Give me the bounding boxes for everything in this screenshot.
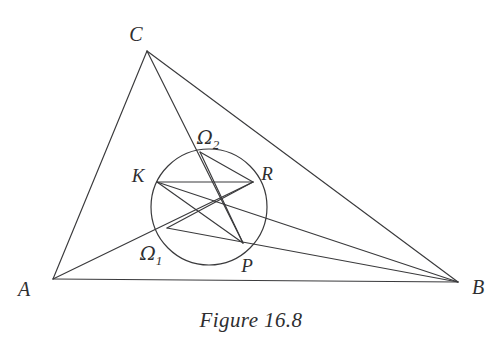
label-omega-1: Ω1 [139, 242, 162, 268]
label-K: K [131, 165, 146, 186]
figure-caption: Figure 16.8 [0, 308, 502, 333]
geometry-diagram: A B C K R P Ω1 Ω2 [0, 0, 502, 360]
segment-CB [147, 51, 458, 282]
segment-A-to-R [53, 182, 253, 279]
label-P: P [240, 255, 253, 276]
omega-2-glyph: Ω [196, 126, 213, 148]
segment-B-to-P [167, 228, 458, 282]
omega-1-subscript: 1 [156, 253, 163, 268]
segment-B-to-K [157, 182, 458, 282]
label-B: B [472, 276, 484, 298]
chord-P-Omega2 [200, 152, 243, 243]
segment-C-to-P [147, 51, 243, 243]
label-R: R [260, 163, 273, 184]
chord-R-Omega2 [200, 152, 253, 182]
figure-container: A B C K R P Ω1 Ω2 Figure 16.8 [0, 0, 502, 360]
label-omega-2: Ω2 [196, 126, 220, 152]
inscribed-circle [151, 149, 267, 265]
label-C: C [129, 23, 143, 45]
label-A: A [16, 278, 31, 300]
omega-1-glyph: Ω [139, 242, 156, 264]
segment-AB [53, 279, 458, 282]
omega-2-subscript: 2 [213, 137, 220, 152]
chord-R-Omega1 [167, 182, 253, 228]
